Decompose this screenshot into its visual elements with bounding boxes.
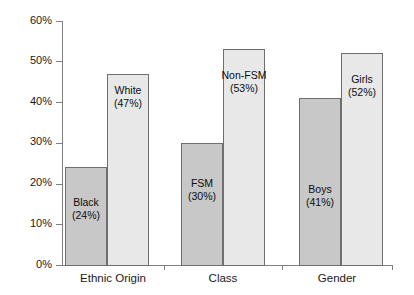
- y-axis-tick-label-10: 10%: [0, 218, 52, 229]
- y-tick-text: 0%: [10, 259, 52, 270]
- bar-label-girls: Girls (52%): [337, 73, 387, 98]
- x-axis-group-label-class: Class: [164, 272, 282, 285]
- bar-label-value: (53%): [215, 82, 273, 95]
- bar-label-value: (24%): [61, 209, 111, 222]
- x-axis-group-separator-tick-2: [282, 265, 283, 270]
- y-tick-text: 40%: [10, 96, 52, 107]
- y-axis-tick-label-40: 40%: [0, 96, 52, 107]
- plot-area: 60% 50% 40% 30% 20% 10% 0%: [0, 0, 414, 295]
- x-axis-group-separator-tick-1: [164, 265, 165, 270]
- y-tick-text: 60%: [10, 15, 52, 26]
- bar-boys: [299, 98, 341, 266]
- y-axis-tick-label-20: 20%: [0, 177, 52, 188]
- bar-chart: 60% 50% 40% 30% 20% 10% 0%: [0, 0, 414, 295]
- y-axis-tick-label-30: 30%: [0, 136, 52, 147]
- bar-label-name: Boys: [295, 183, 345, 196]
- y-axis-tick-label-50: 50%: [0, 55, 52, 66]
- bar-label-non-fsm: Non-FSM (53%): [215, 69, 273, 94]
- bar-label-value: (30%): [177, 190, 227, 203]
- bar-label-name: White: [103, 84, 153, 97]
- bar-label-value: (52%): [337, 86, 387, 99]
- bar-label-name: Non-FSM: [215, 69, 273, 82]
- bar-label-black: Black (24%): [61, 196, 111, 221]
- y-tick-text: 50%: [10, 55, 52, 66]
- bar-label-boys: Boys (41%): [295, 183, 345, 208]
- y-axis-tick-label-0: 0%: [0, 259, 52, 270]
- bar-label-name: Girls: [337, 73, 387, 86]
- bar-label-value: (41%): [295, 196, 345, 209]
- bar-label-fsm: FSM (30%): [177, 177, 227, 202]
- x-axis-group-label-ethnic-origin: Ethnic Origin: [62, 272, 164, 285]
- x-axis-end-tick: [392, 265, 393, 270]
- bar-label-name: Black: [61, 196, 111, 209]
- y-tick-text: 30%: [10, 136, 52, 147]
- x-axis-group-label-gender: Gender: [282, 272, 392, 285]
- y-tick-text: 10%: [10, 218, 52, 229]
- y-axis-line: [62, 21, 63, 265]
- bar-label-white: White (47%): [103, 84, 153, 109]
- bar-label-name: FSM: [177, 177, 227, 190]
- y-axis-tick-label-60: 60%: [0, 15, 52, 26]
- bar-label-value: (47%): [103, 97, 153, 110]
- y-tick-text: 20%: [10, 177, 52, 188]
- bar-fsm: [181, 143, 223, 266]
